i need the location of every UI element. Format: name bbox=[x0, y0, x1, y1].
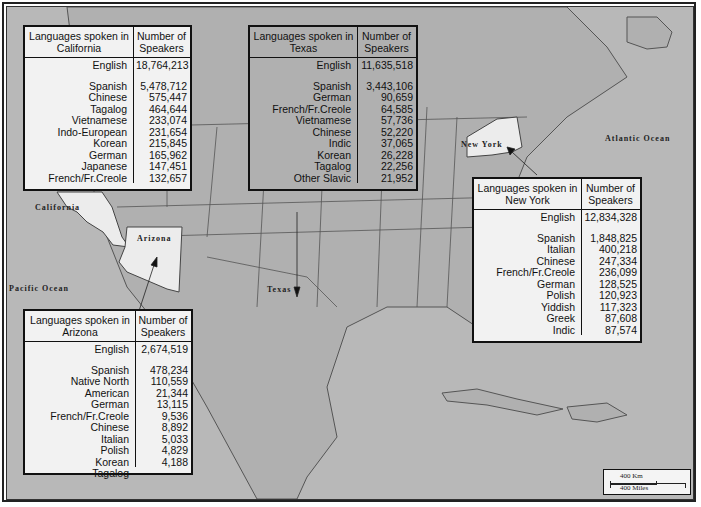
header-speakers: Number of Speakers bbox=[358, 27, 415, 57]
header-language: Languages spoken in California bbox=[25, 27, 134, 57]
lang: Polish bbox=[476, 290, 575, 302]
num: 8,892 bbox=[138, 422, 188, 434]
num: 236,099 bbox=[584, 267, 637, 279]
lang: Italian bbox=[476, 244, 575, 256]
header-language: Languages spoken in New York bbox=[474, 179, 582, 209]
header-speakers: Number of Speakers bbox=[582, 179, 639, 209]
header-speakers: Number of Speakers bbox=[136, 311, 190, 341]
map-scale: 400 Km 400 Miles bbox=[603, 469, 691, 495]
lang-english: English bbox=[252, 60, 351, 72]
lang: Chinese bbox=[27, 422, 129, 434]
num: 110,559 bbox=[138, 376, 188, 388]
lang: German bbox=[27, 399, 129, 411]
num: 57,736 bbox=[360, 115, 413, 127]
num: 147,451 bbox=[136, 161, 187, 173]
num: 132,657 bbox=[136, 173, 187, 185]
lang: Polish bbox=[27, 445, 129, 457]
num: 400,218 bbox=[584, 244, 637, 256]
lang: Vietnamese bbox=[252, 115, 351, 127]
num: 4,829 bbox=[138, 445, 188, 457]
lang: Tagalog bbox=[252, 161, 351, 173]
lang: Native North American bbox=[27, 376, 129, 399]
table-california: Languages spoken in California Number of… bbox=[23, 25, 192, 191]
num-english: 12,834,328 bbox=[584, 212, 637, 224]
num-english: 11,635,518 bbox=[360, 60, 413, 72]
lang: Indic bbox=[476, 325, 575, 337]
lang: Chinese bbox=[27, 92, 127, 104]
num: 13,115 bbox=[138, 399, 188, 411]
lang: Tagalog bbox=[27, 468, 129, 480]
lang: Vietnamese bbox=[27, 115, 127, 127]
header-speakers: Number of Speakers bbox=[134, 27, 189, 57]
num: 90,659 bbox=[360, 92, 413, 104]
scale-km: 400 Km bbox=[620, 472, 643, 480]
lang: French/Fr.Creole bbox=[27, 173, 127, 185]
num: 215,845 bbox=[136, 138, 187, 150]
label-arizona: Arizona bbox=[137, 234, 172, 243]
lang-english: English bbox=[27, 344, 129, 356]
num: 37,065 bbox=[360, 138, 413, 150]
label-pacific-ocean: Pacific Ocean bbox=[9, 284, 69, 293]
num: 4,188 bbox=[138, 457, 188, 469]
num-english: 2,674,519 bbox=[138, 344, 188, 356]
num: 22,256 bbox=[360, 161, 413, 173]
num: 87,608 bbox=[584, 313, 637, 325]
label-texas: Texas bbox=[267, 285, 291, 294]
num-english: 18,764,213 bbox=[136, 60, 187, 72]
table-arizona: Languages spoken in Arizona Number of Sp… bbox=[23, 309, 193, 475]
header-language: Languages spoken in Texas bbox=[250, 27, 358, 57]
num: 87,574 bbox=[584, 325, 637, 337]
num: 233,074 bbox=[136, 115, 187, 127]
lang: Other Slavic bbox=[252, 173, 351, 185]
num: 120,923 bbox=[584, 290, 637, 302]
label-atlantic-ocean: Atlantic Ocean bbox=[605, 134, 670, 143]
lang-english: English bbox=[476, 212, 575, 224]
label-california: California bbox=[35, 203, 80, 212]
lang: German bbox=[252, 92, 351, 104]
lang-english: English bbox=[27, 60, 127, 72]
lang: French/Fr.Creole bbox=[476, 267, 575, 279]
lang: Indic bbox=[252, 138, 351, 150]
scale-miles: 400 Miles bbox=[620, 484, 648, 492]
num: 21,952 bbox=[360, 173, 413, 185]
table-new-york: Languages spoken in New York Number of S… bbox=[472, 177, 642, 343]
label-new-york: New York bbox=[461, 140, 503, 149]
table-texas: Languages spoken in Texas Number of Spea… bbox=[248, 25, 418, 191]
num: 575,447 bbox=[136, 92, 187, 104]
lang: Korean bbox=[27, 138, 127, 150]
header-language: Languages spoken in Arizona bbox=[25, 311, 136, 341]
lang: Japanese bbox=[27, 161, 127, 173]
lang: Greek bbox=[476, 313, 575, 325]
